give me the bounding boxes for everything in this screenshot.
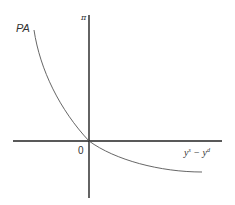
diagram-canvas xyxy=(0,0,235,205)
y-axis-label-pi: π xyxy=(81,14,86,22)
x-axis-label-sup2: d xyxy=(207,147,210,153)
origin-label: 0 xyxy=(78,146,84,156)
pa-curve xyxy=(34,30,202,172)
phillips-curve-diagram: PA π 0 ys − yd xyxy=(0,0,235,205)
curve-label-pa: PA xyxy=(16,23,30,34)
x-axis-label: ys − yd xyxy=(184,147,210,158)
x-axis-label-operator: − xyxy=(191,147,203,158)
